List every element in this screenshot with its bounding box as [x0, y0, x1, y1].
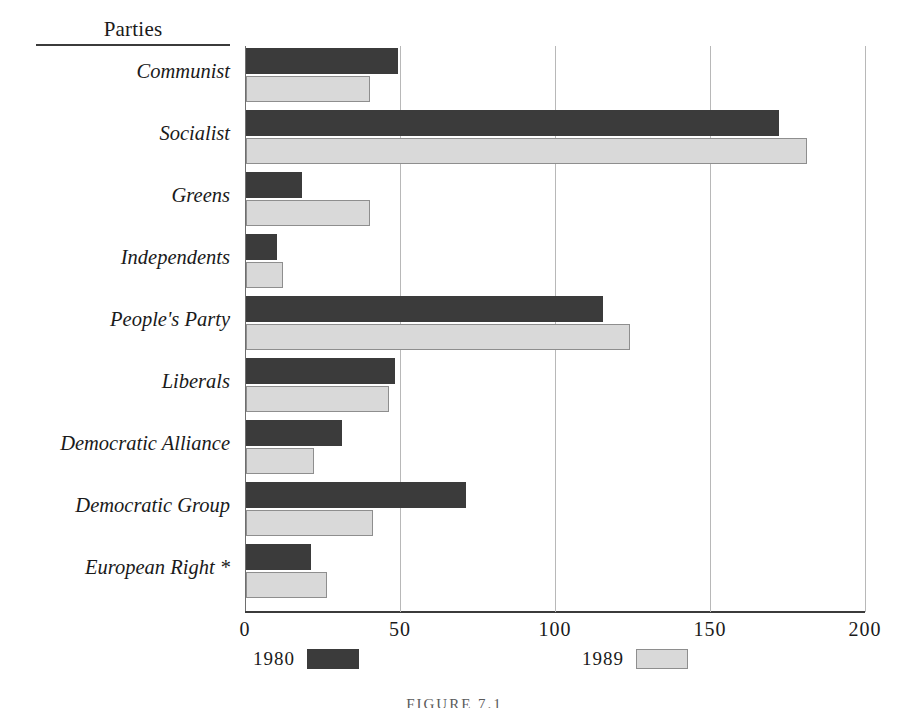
- bar-1989: [246, 448, 314, 474]
- bar-1989: [246, 200, 370, 226]
- x-tick-label: 200: [820, 618, 909, 641]
- x-tick-label: 50: [355, 618, 445, 641]
- bar-row: People's Party: [0, 294, 909, 356]
- figure-caption: FIGURE 7.1: [0, 696, 909, 708]
- row-label: Democratic Alliance: [15, 432, 230, 455]
- bar-row: European Right *: [0, 542, 909, 604]
- row-label: Liberals: [15, 370, 230, 393]
- legend-entry: 1980: [253, 648, 359, 670]
- row-label: Democratic Group: [15, 494, 230, 517]
- legend-swatch-light: [636, 649, 688, 669]
- bar-row: Communist: [0, 46, 909, 108]
- bar-1980: [246, 234, 277, 260]
- bar-row: Greens: [0, 170, 909, 232]
- bar-row: Independents: [0, 232, 909, 294]
- row-label: Communist: [15, 60, 230, 83]
- bar-row: Democratic Alliance: [0, 418, 909, 480]
- bar-1980: [246, 48, 398, 74]
- x-tick-label: 0: [200, 618, 290, 641]
- bar-1980: [246, 110, 779, 136]
- bar-1980: [246, 358, 395, 384]
- legend-swatch-dark: [307, 649, 359, 669]
- x-tick-label: 100: [510, 618, 600, 641]
- bar-1989: [246, 324, 630, 350]
- legend-entry: 1989: [582, 648, 688, 670]
- bar-1980: [246, 296, 603, 322]
- row-label: European Right *: [15, 556, 230, 579]
- bar-1989: [246, 510, 373, 536]
- bar-1989: [246, 386, 389, 412]
- bar-1989: [246, 138, 807, 164]
- bar-1980: [246, 420, 342, 446]
- row-label: Independents: [15, 246, 230, 269]
- bar-1980: [246, 172, 302, 198]
- bar-1989: [246, 76, 370, 102]
- bar-chart: Parties CommunistSocialistGreensIndepend…: [0, 0, 909, 708]
- bar-row: Socialist: [0, 108, 909, 170]
- bar-1989: [246, 572, 327, 598]
- row-label: People's Party: [15, 308, 230, 331]
- legend: 19801989: [245, 648, 715, 674]
- bar-1989: [246, 262, 283, 288]
- column-header-parties: Parties: [36, 17, 230, 42]
- bar-1980: [246, 544, 311, 570]
- bar-row: Democratic Group: [0, 480, 909, 542]
- bar-row: Liberals: [0, 356, 909, 418]
- x-tick-label: 150: [665, 618, 755, 641]
- legend-label: 1980: [253, 648, 295, 670]
- legend-label: 1989: [582, 648, 624, 670]
- row-label: Socialist: [15, 122, 230, 145]
- row-label: Greens: [15, 184, 230, 207]
- bar-1980: [246, 482, 466, 508]
